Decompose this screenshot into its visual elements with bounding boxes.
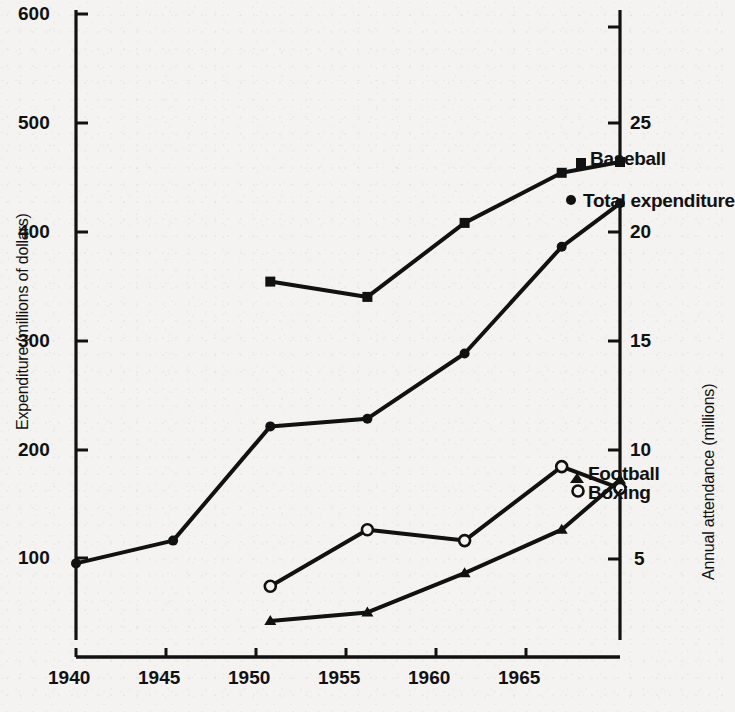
left-tick-label-500: 500 xyxy=(18,112,50,134)
total-expenditure-point-1965 xyxy=(557,242,567,252)
total-expenditure-point-1960 xyxy=(460,349,470,359)
right-tick-label-15: 15 xyxy=(630,330,651,352)
left-tick-label-600: 600 xyxy=(18,3,50,25)
series-label-baseball: Baseball xyxy=(590,148,666,170)
football-line xyxy=(270,480,620,621)
right-axis xyxy=(608,10,620,640)
bottom-tick-label-1955: 1955 xyxy=(318,667,360,689)
left-axis xyxy=(76,10,88,640)
total-expenditure-point-1945 xyxy=(168,536,178,546)
right-tick-label-5: 5 xyxy=(634,548,645,570)
right-tick-label-10: 10 xyxy=(630,439,651,461)
series-boxing xyxy=(265,461,626,592)
legend-marker-baseball xyxy=(576,158,586,168)
bottom-tick-label-1965: 1965 xyxy=(498,667,540,689)
boxing-point-1955 xyxy=(362,524,373,535)
baseball-point-1965 xyxy=(557,168,567,178)
left-axis-title: Expenditure (millions of dollars) xyxy=(14,213,32,430)
series-baseball xyxy=(265,157,625,302)
right-axis-title: Annual attendance (millions) xyxy=(700,384,718,580)
baseball-point-1960 xyxy=(460,218,470,228)
bottom-tick-label-1945: 1945 xyxy=(138,667,180,689)
baseball-point-1950 xyxy=(265,277,275,287)
series-total-expenditure xyxy=(71,198,625,568)
total-expenditure-point-1950 xyxy=(265,421,275,431)
bottom-tick-label-1960: 1960 xyxy=(408,667,450,689)
total-expenditure-line xyxy=(76,203,620,563)
series-football xyxy=(264,474,626,625)
baseball-point-1955 xyxy=(362,292,372,302)
baseball-line xyxy=(270,162,620,297)
boxing-point-1950 xyxy=(265,581,276,592)
left-tick-label-100: 100 xyxy=(18,547,50,569)
series-label-total-expenditure: Total expenditure xyxy=(583,190,735,212)
bottom-tick-label-1950: 1950 xyxy=(228,667,270,689)
boxing-point-1965 xyxy=(556,461,567,472)
left-tick-label-200: 200 xyxy=(18,439,50,461)
bottom-axis xyxy=(76,648,620,657)
legend-marker-boxing xyxy=(573,486,584,497)
total-expenditure-point-1940 xyxy=(71,558,81,568)
bottom-tick-label-1940: 1940 xyxy=(48,667,90,689)
right-tick-label-25: 25 xyxy=(630,112,651,134)
series-label-boxing: Boxing xyxy=(588,482,651,504)
right-tick-label-20: 20 xyxy=(630,221,651,243)
total-expenditure-point-1955 xyxy=(362,414,372,424)
legend-marker-total-expenditure xyxy=(566,195,576,205)
boxing-point-1960 xyxy=(459,535,470,546)
